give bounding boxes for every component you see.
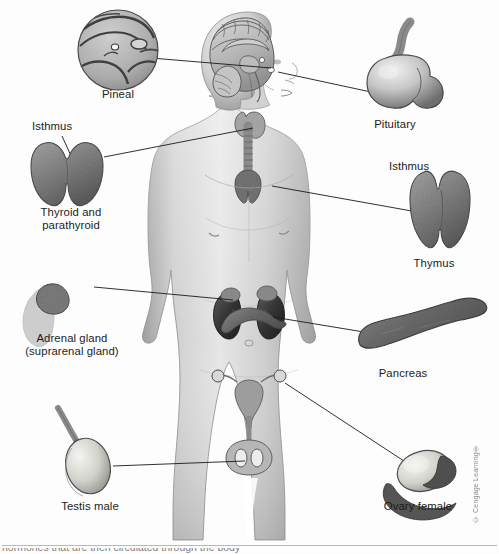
- label-pancreas: Pancreas: [348, 367, 458, 380]
- inset-thyroid: [31, 143, 103, 206]
- ovary-right-in-situ: [274, 370, 286, 382]
- page-divider-rule: [2, 545, 497, 546]
- pineal-highlight: [111, 44, 118, 50]
- leader-pancreas: [273, 317, 370, 333]
- testis-right-in-situ: [251, 449, 263, 467]
- inset-thymus: [410, 171, 470, 248]
- ovary-left-in-situ: [212, 370, 224, 382]
- diagram-canvas: [0, 0, 499, 554]
- inset-pancreas: [359, 298, 487, 348]
- label-adrenal-gland: Adrenal gland (suprarenal gland): [1, 332, 143, 358]
- brain-sagittal-section: [210, 18, 275, 102]
- label-ovary-female: Ovary female: [358, 500, 478, 513]
- trachea: [244, 126, 253, 170]
- inset-testis: [58, 408, 116, 498]
- inset-pituitary: [367, 22, 443, 108]
- label-isthmus-thymus: Isthmus: [389, 160, 429, 173]
- testis-body: [60, 434, 116, 499]
- clipped-caption-text: hormones that are then circulated throug…: [2, 548, 499, 553]
- label-thyroid-parathyroid: Thyroid and parathyroid: [6, 206, 136, 232]
- endocrine-system-figure: Pineal Isthmus Thyroid and parathyroid A…: [0, 0, 499, 554]
- label-pituitary: Pituitary: [340, 118, 450, 131]
- inset-pineal: [78, 10, 166, 90]
- label-thymus: Thymus: [388, 257, 480, 270]
- clipped-caption-sliver: hormones that are then circulated throug…: [0, 548, 499, 554]
- testis-left-in-situ: [235, 449, 247, 467]
- leader-ovary: [285, 383, 407, 463]
- pineal-gland-in-situ: [259, 57, 264, 62]
- label-pineal: Pineal: [66, 88, 170, 101]
- testes-and-scrotum: [226, 440, 272, 475]
- copyright-notice: © Cengage Learning®: [472, 444, 486, 523]
- label-testis-male: Testis male: [30, 500, 150, 513]
- label-isthmus-thyroid: Isthmus: [32, 120, 72, 133]
